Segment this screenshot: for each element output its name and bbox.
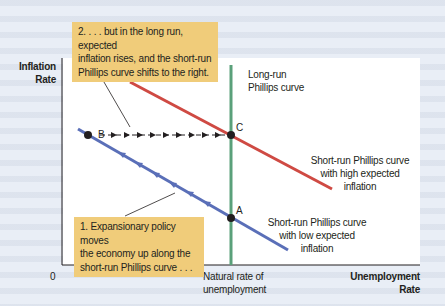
y-axis-title: Inflation Rate <box>8 60 56 86</box>
point-b-label: B <box>98 128 104 141</box>
y-axis-title-line2: Rate <box>8 73 56 86</box>
callout-long-run: 2. . . . but in the long run, expected i… <box>72 22 218 82</box>
point-c <box>227 131 235 139</box>
low-label-line2: with low expected <box>262 229 372 242</box>
natural-rate-label: Natural rate of unemployment <box>203 270 266 296</box>
point-c-label: C <box>236 121 243 134</box>
long-run-label-line1: Long-run <box>248 68 304 81</box>
point-a-label: A <box>236 204 242 217</box>
point-a <box>227 214 235 222</box>
callout-bottom-line1: 1. Expansionary policy moves <box>80 220 198 247</box>
leader-line-bottom <box>125 193 175 216</box>
high-label-line2: with high expected <box>305 167 415 180</box>
point-b <box>84 131 92 139</box>
callout-bottom-line2: the economy up along the <box>80 247 198 261</box>
natural-rate-line2: unemployment <box>203 283 266 296</box>
high-label-line1: Short-run Phillips curve <box>305 154 415 167</box>
low-label-line1: Short-run Phillips curve <box>262 216 372 229</box>
callout-top-line3: Phillips curve shifts to the right. <box>78 66 212 80</box>
x-axis-title-line1: Unemployment <box>330 270 420 283</box>
callout-bottom-line3: short-run Phillips curve . . . <box>80 261 198 275</box>
low-expected-label: Short-run Phillips curve with low expect… <box>262 216 372 255</box>
callout-top-line2: inflation rises, and the short-run <box>78 52 212 66</box>
callout-expansionary: 1. Expansionary policy moves the economy… <box>74 217 204 277</box>
high-label-line3: inflation <box>305 180 415 193</box>
long-run-label: Long-run Phillips curve <box>248 68 304 94</box>
y-axis-title-line1: Inflation <box>8 60 56 73</box>
phillips-curve-diagram <box>0 0 445 306</box>
natural-rate-line1: Natural rate of <box>203 270 266 283</box>
long-run-label-line2: Phillips curve <box>248 81 304 94</box>
low-label-line3: inflation <box>262 242 372 255</box>
callout-top-line1: 2. . . . but in the long run, expected <box>78 25 212 52</box>
x-axis-title: Unemployment Rate <box>330 270 420 296</box>
high-expected-label: Short-run Phillips curve with high expec… <box>305 154 415 193</box>
x-axis-title-line2: Rate <box>330 283 420 296</box>
origin-label: 0 <box>50 270 55 283</box>
